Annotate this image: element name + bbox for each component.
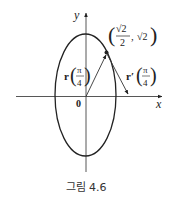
svg-text:(: (	[70, 64, 77, 87]
point-x-denominator: 2	[120, 37, 125, 48]
svg-text:(: (	[108, 22, 115, 47]
origin-label: 0	[76, 98, 81, 109]
point-x-numerator: √2	[116, 23, 127, 34]
position-vector-label: r ( π 4 )	[64, 64, 91, 88]
y-axis-label: y	[73, 8, 80, 22]
figure-4-6: y x 0 ( √2 2 , √2 ) r ( π 4 ) r′ ( π 4 )…	[0, 0, 173, 200]
point-marker	[105, 51, 109, 55]
figure-caption: 그림 4.6	[66, 181, 107, 194]
point-label: ( √2 2 , √2 )	[108, 22, 157, 48]
svg-text:4: 4	[77, 78, 82, 88]
svg-text:): )	[150, 22, 157, 47]
svg-text:): )	[150, 64, 157, 87]
svg-text:π: π	[143, 65, 148, 75]
svg-text:r′: r′	[126, 70, 134, 82]
svg-text:r: r	[64, 70, 69, 82]
svg-text:): )	[84, 64, 91, 87]
svg-text:,: ,	[131, 30, 134, 42]
svg-text:4: 4	[143, 78, 148, 88]
tangent-vector-label: r′ ( π 4 )	[126, 64, 157, 88]
point-y-value: √2	[137, 31, 148, 42]
svg-text:π: π	[77, 65, 82, 75]
svg-text:(: (	[136, 64, 143, 87]
tangent-vector-arrow	[107, 53, 129, 94]
x-axis-label: x	[155, 97, 162, 111]
